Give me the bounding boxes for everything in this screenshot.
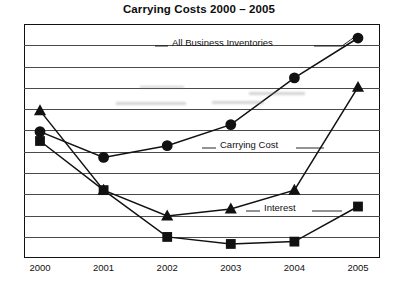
leader-lines bbox=[24, 24, 380, 258]
x-tick-label: 2000 bbox=[29, 262, 50, 273]
x-tick-label: 2001 bbox=[93, 262, 114, 273]
x-axis: 200020012002200320042005 bbox=[24, 260, 380, 280]
chart-title: Carrying Costs 2000 – 2005 bbox=[0, 3, 398, 15]
x-tick-label: 2004 bbox=[284, 262, 305, 273]
plot-area: All Business InventoriesCarrying CostInt… bbox=[24, 24, 380, 258]
x-tick-label: 2003 bbox=[220, 262, 241, 273]
series-annotations: All Business InventoriesCarrying CostInt… bbox=[24, 24, 380, 258]
x-tick-label: 2005 bbox=[347, 262, 368, 273]
chart-figure: Carrying Costs 2000 – 2005 All Business … bbox=[0, 0, 398, 289]
x-tick-label: 2002 bbox=[157, 262, 178, 273]
leader-line bbox=[314, 36, 356, 46]
